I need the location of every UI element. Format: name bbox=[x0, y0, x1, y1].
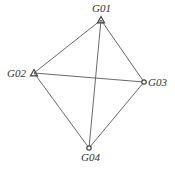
node-label-g03: G03 bbox=[148, 76, 167, 88]
node-label-g01: G01 bbox=[92, 2, 111, 14]
edge-g01-g03 bbox=[101, 20, 144, 82]
graph-svg: G01 G02 G03 G04 bbox=[0, 0, 175, 172]
edge-g01-g02 bbox=[34, 20, 101, 73]
circle-node-icon bbox=[87, 146, 91, 150]
node-label-g02: G02 bbox=[7, 67, 26, 79]
edges-group bbox=[34, 20, 144, 148]
edge-g03-g04 bbox=[89, 82, 144, 148]
network-diagram: G01 G02 G03 G04 bbox=[0, 0, 175, 172]
edge-g01-g04 bbox=[89, 20, 101, 148]
edge-g02-g03 bbox=[34, 73, 144, 82]
circle-node-icon bbox=[142, 80, 146, 84]
nodes-group bbox=[31, 17, 147, 151]
node-label-g04: G04 bbox=[81, 151, 100, 163]
edge-g02-g04 bbox=[34, 73, 89, 148]
